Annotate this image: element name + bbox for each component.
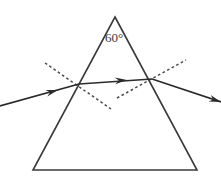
prism-refraction-svg: 60°	[0, 0, 221, 178]
internal-refracted-ray-line	[79, 79, 152, 84]
apex-angle-label: 60°	[105, 30, 123, 45]
prism-refraction-diagram: 60°	[0, 0, 221, 178]
incident-ray-line	[0, 84, 79, 106]
emergent-ray-line	[152, 79, 221, 102]
